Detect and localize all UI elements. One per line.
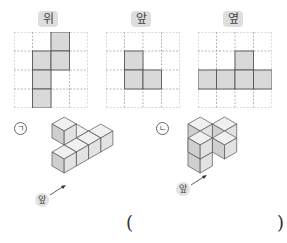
- figure-a-cubes: [40, 112, 140, 192]
- front-arrow-a-icon: [48, 182, 68, 198]
- filled-cell: [235, 51, 254, 70]
- filled-cell: [51, 51, 70, 70]
- grid-top-view: [14, 32, 88, 108]
- answer-open-paren: (: [126, 212, 133, 233]
- front-arrow-b-icon: [189, 172, 209, 188]
- view-label-top: 위: [38, 11, 58, 27]
- filled-cell: [254, 70, 273, 89]
- answer-blank[interactable]: [136, 214, 274, 234]
- front-label-a: 앞: [35, 193, 49, 207]
- filled-cell: [33, 89, 52, 108]
- filled-cell: [125, 70, 144, 89]
- figure-marker-a: ㄱ: [14, 122, 27, 135]
- view-label-side: 옆: [223, 11, 243, 27]
- filled-cell: [125, 51, 144, 70]
- filled-cell: [33, 70, 52, 89]
- grid-top-svg: [14, 32, 88, 108]
- grid-top-cells: [14, 32, 88, 108]
- grid-side-view: [198, 32, 272, 108]
- answer-close-paren: ): [277, 212, 284, 233]
- filled-cell: [235, 70, 254, 89]
- filled-cell: [143, 70, 162, 89]
- figure-marker-b: ㄴ: [156, 122, 169, 135]
- grid-front-svg: [106, 32, 180, 108]
- grid-side-svg: [198, 32, 272, 108]
- view-label-front: 앞: [131, 11, 151, 27]
- filled-cell: [217, 70, 236, 89]
- front-label-b: 앞: [176, 182, 190, 196]
- filled-cell: [51, 32, 70, 51]
- filled-cell: [33, 51, 52, 70]
- filled-cell: [198, 70, 217, 89]
- grid-front-view: [106, 32, 180, 108]
